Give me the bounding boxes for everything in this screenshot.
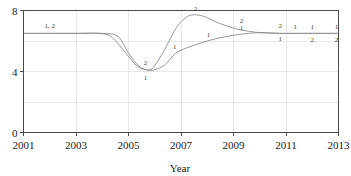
y-axis-tick-labels: 840 bbox=[12, 5, 24, 139]
point-label: 2 bbox=[144, 59, 148, 67]
x-tick-label: 2003 bbox=[65, 139, 88, 151]
point-label: 1, 2 bbox=[45, 22, 56, 30]
point-label: 2 bbox=[335, 36, 339, 44]
y-tick-label: 4 bbox=[12, 66, 18, 78]
point-label: 1 bbox=[278, 35, 282, 43]
point-label: 2 bbox=[311, 36, 315, 44]
point-label: 1 bbox=[173, 43, 177, 51]
point-label: 2 bbox=[278, 22, 282, 30]
point-label: 1 bbox=[335, 23, 339, 31]
x-axis-title: Year bbox=[170, 162, 191, 174]
x-tick-label: 2005 bbox=[118, 139, 141, 151]
x-tick-label: 2007 bbox=[170, 139, 193, 151]
line-chart: 840 2001200320052007200920112013 1, 2211… bbox=[0, 0, 351, 176]
y-tick-label: 0 bbox=[12, 127, 18, 139]
x-tick-label: 2013 bbox=[328, 139, 351, 151]
point-label: 1 bbox=[207, 31, 211, 39]
chart-container: 840 2001200320052007200920112013 1, 2211… bbox=[0, 0, 351, 176]
point-label: 1 bbox=[311, 23, 315, 31]
point-label: 1 bbox=[293, 23, 297, 31]
x-tick-label: 2011 bbox=[275, 139, 297, 151]
grid-lines bbox=[24, 11, 339, 133]
point-label: 2 bbox=[194, 5, 198, 13]
point-label: 2 bbox=[240, 17, 244, 25]
x-tick-label: 2001 bbox=[13, 139, 35, 151]
x-tick-label: 2009 bbox=[223, 139, 246, 151]
x-axis-tick-labels: 2001200320052007200920112013 bbox=[13, 133, 351, 151]
point-label: 1 bbox=[144, 74, 148, 82]
data-point-labels: 1, 221121212111212 bbox=[45, 5, 339, 82]
point-label: 1 bbox=[240, 24, 244, 32]
y-tick-label: 8 bbox=[12, 5, 18, 17]
